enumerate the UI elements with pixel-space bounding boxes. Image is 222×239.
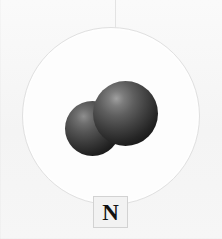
vertical-guide-line [115, 0, 116, 30]
atom-sphere-right [93, 81, 158, 146]
molecule-diagram: N [0, 0, 222, 239]
element-label-box: N [93, 196, 128, 228]
element-label-text: N [102, 201, 119, 224]
